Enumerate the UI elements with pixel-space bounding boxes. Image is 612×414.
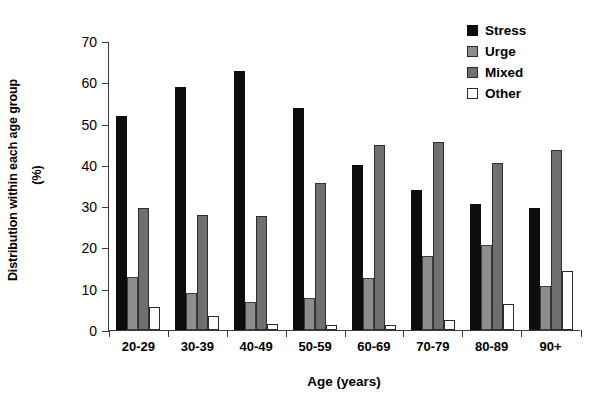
y-axis-tick: 70 bbox=[102, 42, 109, 43]
x-axis-tick-label: 90+ bbox=[540, 339, 562, 354]
bar-stress-60-69 bbox=[352, 165, 363, 330]
x-axis-tick bbox=[109, 330, 110, 337]
bar-urge-20-29 bbox=[127, 277, 138, 330]
x-axis-tick bbox=[462, 330, 463, 337]
y-axis-tick: 40 bbox=[102, 166, 109, 167]
x-axis-tick-label: 60-69 bbox=[357, 339, 390, 354]
x-axis-tick bbox=[521, 330, 522, 337]
bar-group-20-29: 20-29 bbox=[109, 42, 168, 330]
x-axis-tick-label: 70-79 bbox=[416, 339, 449, 354]
bar-group-70-79: 70-79 bbox=[403, 42, 462, 330]
x-axis-tick bbox=[345, 330, 346, 337]
y-axis-tick-label: 70 bbox=[81, 34, 97, 50]
x-axis-tick-label: 30-39 bbox=[181, 339, 214, 354]
bar-urge-50-59 bbox=[304, 298, 315, 330]
bar-urge-80-89 bbox=[481, 245, 492, 330]
x-axis-tick-label: 20-29 bbox=[122, 339, 155, 354]
bar-stress-90+ bbox=[529, 208, 540, 330]
y-axis-tick-label: 30 bbox=[81, 199, 97, 215]
y-axis-title-text: Distribution within each age group bbox=[6, 79, 20, 281]
x-axis-tick bbox=[168, 330, 169, 337]
legend-item-mixed: Mixed bbox=[467, 62, 526, 83]
legend-label: Urge bbox=[485, 45, 516, 59]
y-axis-unit-text: (%) bbox=[30, 165, 44, 184]
bar-other-90+ bbox=[562, 271, 573, 330]
x-axis-tick bbox=[403, 330, 404, 337]
bar-group-40-49: 40-49 bbox=[227, 42, 286, 330]
x-axis-tick-label: 50-59 bbox=[298, 339, 331, 354]
legend-swatch-icon bbox=[467, 46, 478, 57]
x-axis-tick bbox=[581, 330, 582, 337]
bar-other-30-39 bbox=[208, 316, 219, 330]
bar-other-50-59 bbox=[326, 325, 337, 330]
x-axis-tick-label: 80-89 bbox=[475, 339, 508, 354]
bar-group-60-69: 60-69 bbox=[345, 42, 404, 330]
bar-other-20-29 bbox=[149, 307, 160, 330]
bar-group-50-59: 50-59 bbox=[286, 42, 345, 330]
x-axis-tick-label: 40-49 bbox=[240, 339, 273, 354]
bar-stress-70-79 bbox=[411, 190, 422, 330]
x-axis-title: Age (years) bbox=[108, 374, 580, 389]
legend-item-stress: Stress bbox=[467, 20, 526, 41]
y-axis-tick: 30 bbox=[102, 207, 109, 208]
bar-mixed-40-49 bbox=[256, 216, 267, 330]
y-axis-tick: 50 bbox=[102, 125, 109, 126]
legend-label: Stress bbox=[485, 24, 526, 38]
legend-swatch-icon bbox=[467, 25, 478, 36]
legend: StressUrgeMixedOther bbox=[467, 20, 526, 104]
legend-swatch-icon bbox=[467, 67, 478, 78]
y-axis-tick-label: 0 bbox=[89, 323, 97, 339]
y-axis-tick: 60 bbox=[102, 83, 109, 84]
bar-other-60-69 bbox=[385, 325, 396, 330]
y-axis-tick: 0 bbox=[102, 331, 109, 332]
bar-group-90+: 90+ bbox=[521, 42, 580, 330]
legend-label: Other bbox=[485, 87, 521, 101]
bar-other-70-79 bbox=[444, 320, 455, 330]
y-axis-unit: (%) bbox=[26, 130, 48, 220]
bar-mixed-70-79 bbox=[433, 142, 444, 330]
y-axis-tick: 10 bbox=[102, 290, 109, 291]
bar-other-40-49 bbox=[267, 324, 278, 330]
y-axis-title: Distribution within each age group bbox=[0, 0, 26, 360]
legend-item-other: Other bbox=[467, 83, 526, 104]
y-axis-tick-label: 60 bbox=[81, 75, 97, 91]
legend-label: Mixed bbox=[485, 66, 523, 80]
bar-chart-figure: Distribution within each age group (%) 0… bbox=[0, 0, 612, 414]
y-axis-tick-label: 20 bbox=[81, 240, 97, 256]
bar-mixed-50-59 bbox=[315, 183, 326, 330]
bar-stress-80-89 bbox=[470, 204, 481, 330]
bar-stress-30-39 bbox=[175, 87, 186, 330]
y-axis-tick: 20 bbox=[102, 248, 109, 249]
bar-mixed-80-89 bbox=[492, 163, 503, 330]
legend-item-urge: Urge bbox=[467, 41, 526, 62]
bar-urge-70-79 bbox=[422, 256, 433, 330]
bar-group-30-39: 30-39 bbox=[168, 42, 227, 330]
bar-urge-30-39 bbox=[186, 293, 197, 330]
bar-mixed-90+ bbox=[551, 150, 562, 330]
y-axis-tick-label: 50 bbox=[81, 117, 97, 133]
y-axis-tick-label: 40 bbox=[81, 158, 97, 174]
bar-stress-40-49 bbox=[234, 71, 245, 330]
x-axis-tick bbox=[286, 330, 287, 337]
bar-urge-60-69 bbox=[363, 278, 374, 330]
bar-other-80-89 bbox=[503, 304, 514, 330]
bar-urge-40-49 bbox=[245, 302, 256, 330]
bar-urge-90+ bbox=[540, 286, 551, 330]
bar-mixed-30-39 bbox=[197, 215, 208, 330]
bar-mixed-20-29 bbox=[138, 208, 149, 330]
bar-mixed-60-69 bbox=[374, 145, 385, 330]
bar-stress-20-29 bbox=[116, 116, 127, 330]
legend-swatch-icon bbox=[467, 88, 478, 99]
x-axis-tick bbox=[227, 330, 228, 337]
bar-stress-50-59 bbox=[293, 108, 304, 330]
y-axis-tick-label: 10 bbox=[81, 282, 97, 298]
